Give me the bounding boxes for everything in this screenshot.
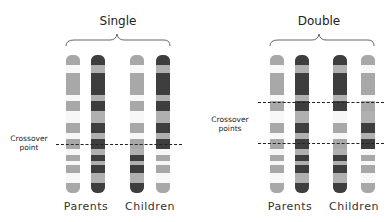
- panel-title-single: Single: [78, 14, 158, 28]
- chromosome-child-2-single: [156, 55, 170, 193]
- chromosome-child-2-double: [361, 55, 375, 193]
- crossover-line-double-2: [258, 143, 384, 144]
- label-parents-double: Parents: [255, 200, 325, 213]
- crossover-label-single: Crossover point: [4, 134, 54, 152]
- panel-title-double: Double: [279, 14, 359, 28]
- chromosome-child-1-single: [130, 55, 144, 193]
- crossover-label-double: Crossover points: [205, 115, 255, 133]
- label-children-double: Children: [319, 200, 389, 213]
- chromosome-child-1-double: [333, 55, 347, 193]
- label-parents-single: Parents: [51, 200, 121, 213]
- crossover-line-single: [56, 144, 182, 145]
- brace-double: [270, 34, 374, 46]
- brace-single: [66, 34, 170, 46]
- chromosome-parent-light-single: [66, 55, 80, 193]
- label-children-single: Children: [115, 200, 185, 213]
- crossover-line-double-1: [258, 102, 384, 103]
- chromosome-parent-dark-double: [295, 55, 309, 193]
- chromosome-parent-light-double: [270, 55, 284, 193]
- chromosome-parent-dark-single: [91, 55, 105, 193]
